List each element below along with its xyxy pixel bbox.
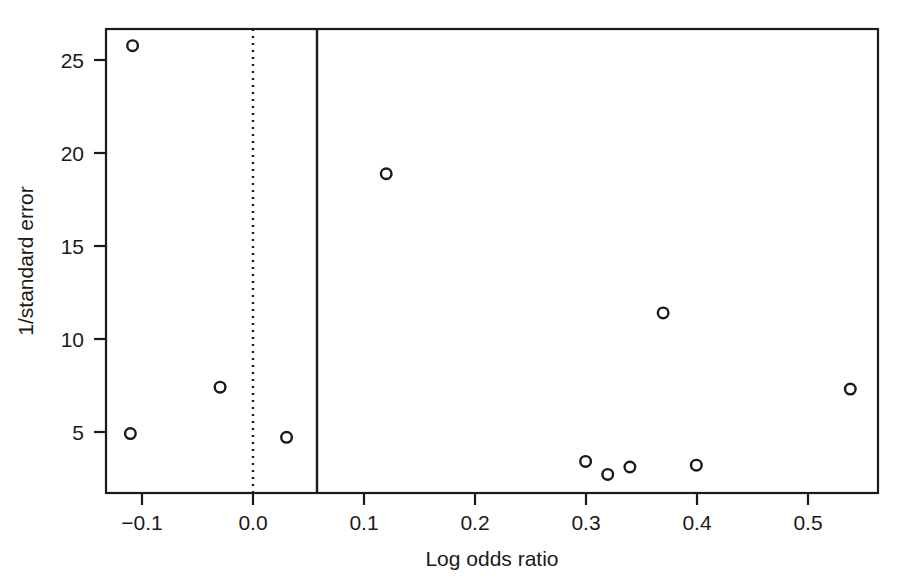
- data-points-layer: [125, 40, 856, 479]
- x-tick-label-6: 0.5: [793, 511, 822, 534]
- x-axis-ticks: [142, 493, 808, 505]
- x-tick-label-3: 0.2: [460, 511, 489, 534]
- y-tick-label-1: 10: [61, 328, 84, 351]
- funnel-plot-figure: −0.1 0.0 0.1 0.2 0.3 0.4 0.5 5 10 15 20 …: [0, 0, 918, 582]
- data-point: [625, 462, 636, 473]
- data-point: [215, 382, 226, 393]
- data-point: [127, 40, 138, 51]
- x-axis-tick-labels: −0.1 0.0 0.1 0.2 0.3 0.4 0.5: [121, 511, 822, 534]
- y-axis-tick-labels: 5 10 15 20 25: [61, 49, 84, 444]
- plot-frame: [106, 29, 878, 493]
- data-point: [658, 308, 669, 319]
- data-point: [845, 384, 856, 395]
- data-point: [281, 432, 292, 443]
- x-axis-title: Log odds ratio: [425, 547, 558, 570]
- y-axis-ticks: [94, 60, 106, 432]
- x-tick-label-5: 0.4: [682, 511, 712, 534]
- data-point: [381, 168, 392, 179]
- x-tick-label-1: 0.0: [238, 511, 267, 534]
- y-tick-label-0: 5: [72, 421, 84, 444]
- data-point: [691, 460, 702, 471]
- x-tick-label-0: −0.1: [121, 511, 162, 534]
- data-point: [125, 428, 136, 439]
- x-tick-label-4: 0.3: [571, 511, 600, 534]
- data-point: [602, 469, 613, 480]
- data-point: [580, 456, 591, 467]
- y-axis-title: 1/standard error: [14, 186, 37, 335]
- x-tick-label-2: 0.1: [349, 511, 378, 534]
- y-tick-label-2: 15: [61, 235, 84, 258]
- y-tick-label-4: 25: [61, 49, 84, 72]
- y-tick-label-3: 20: [61, 142, 84, 165]
- plot-canvas: −0.1 0.0 0.1 0.2 0.3 0.4 0.5 5 10 15 20 …: [0, 0, 918, 582]
